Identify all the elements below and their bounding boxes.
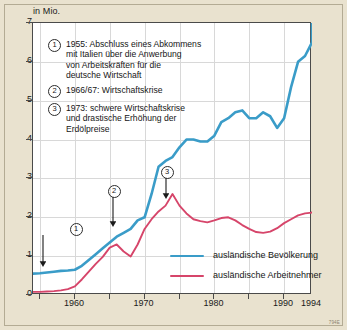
source-code-label: 794E xyxy=(329,320,340,325)
y-tick-label-1: 1 xyxy=(18,249,32,259)
marker-circle-3: 3 xyxy=(161,166,174,179)
note-text-3: 1973: schwere Wirtschaftskrise und drast… xyxy=(66,103,185,134)
y-tick-label-4: 4 xyxy=(18,133,32,143)
y-tick-0 xyxy=(26,294,32,295)
legend-label-bevoelkerung: ausländische Bevölkerung xyxy=(213,250,318,260)
x-tick-label-1970: 1970 xyxy=(124,298,164,308)
x-tick-label-1960: 1960 xyxy=(54,298,94,308)
note-number-1: 1 xyxy=(48,39,61,52)
marker-circle-1: 1 xyxy=(70,223,83,236)
y-tick-label-3: 3 xyxy=(18,171,32,181)
note-text-2: 1966/67: Wirtschaftskrise xyxy=(66,85,162,95)
y-axis-title: in Mio. xyxy=(33,6,60,16)
x-tick-label-1994: 1994 xyxy=(291,298,331,308)
x-tick-label-1980: 1980 xyxy=(193,298,233,308)
y-tick-label-2: 2 xyxy=(18,210,32,220)
y-tick-label-7: 7 xyxy=(18,16,32,26)
note-text-1: 1955: Abschluss eines Abkommens mit Ital… xyxy=(66,39,201,81)
note-number-3: 3 xyxy=(48,103,61,116)
plot-area: 1 2 3 ausländische Bevölkerung ausländis… xyxy=(32,22,311,294)
legend-label-arbeitnehmer: ausländische Arbeitnehmer xyxy=(213,270,322,280)
marker-circle-2: 2 xyxy=(108,185,121,198)
note-number-2: 2 xyxy=(48,85,61,98)
y-tick-label-6: 6 xyxy=(18,55,32,65)
chart-root: in Mio. 7 6 5 4 3 2 1 0 1960 1970 1980 1… xyxy=(0,0,347,330)
y-tick-label-5: 5 xyxy=(18,94,32,104)
y-tick-label-0: 0 xyxy=(18,288,32,298)
